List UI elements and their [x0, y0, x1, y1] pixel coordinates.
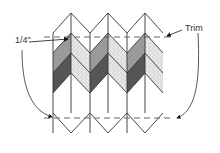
quarter-inch-curved-arrow: [22, 50, 52, 117]
trim-label: Trim: [185, 24, 203, 33]
seam-allowance-label: 1/4": [15, 36, 31, 45]
trim-curved-arrow: [177, 33, 199, 118]
trim-arrow-top: [167, 30, 182, 36]
quarter-inch-arrow: [29, 39, 68, 42]
